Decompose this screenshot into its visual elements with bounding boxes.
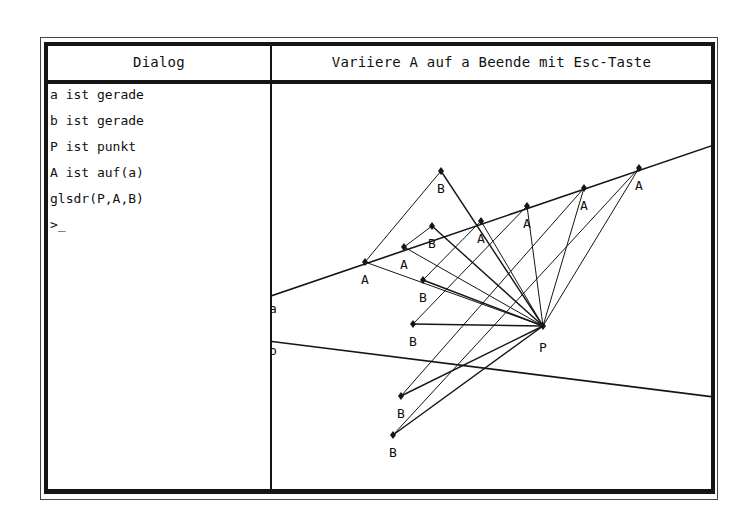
dialog-line: P ist punkt — [50, 140, 136, 154]
segment-AB — [393, 168, 639, 435]
point-A-label: A — [635, 178, 643, 193]
segment-AB — [413, 206, 527, 324]
geometry-drawing[interactable]: abAAAAAABBBBBBP — [272, 84, 711, 489]
dialog-pane[interactable]: a ist gerade b ist gerade P ist punkt A … — [48, 84, 270, 489]
dialog-title: Dialog — [48, 54, 270, 70]
header-bar: Dialog Variiere A auf a Beende mit Esc-T… — [48, 46, 711, 84]
point-A-label: A — [477, 231, 485, 246]
point-B-label: B — [437, 181, 445, 196]
point-B-label: B — [397, 406, 405, 421]
dialog-line: a ist gerade — [50, 88, 144, 102]
segment-PA — [543, 188, 584, 326]
point-P-label: P — [539, 340, 547, 355]
segment-PA — [543, 168, 639, 326]
point-A-label: A — [400, 257, 408, 272]
command-prompt[interactable]: >_ — [50, 218, 66, 232]
canvas-title: Variiere A auf a Beende mit Esc-Taste — [272, 54, 711, 70]
application-window: Dialog Variiere A auf a Beende mit Esc-T… — [44, 42, 715, 494]
line-a — [272, 145, 711, 297]
point-A-label: A — [523, 216, 531, 231]
segment-AB — [401, 188, 584, 396]
point-B-label: B — [409, 334, 417, 349]
point-A-label: A — [361, 272, 369, 287]
point-B-label: B — [389, 445, 397, 460]
segment-PB — [413, 324, 543, 326]
geometry-canvas[interactable]: abAAAAAABBBBBBP — [272, 84, 711, 489]
point-B-label: B — [428, 236, 436, 251]
segment-PA — [481, 221, 543, 326]
line-a-label: a — [272, 301, 277, 316]
line-b-label: b — [272, 343, 277, 358]
point-B-label: B — [419, 290, 427, 305]
dialog-line: glsdr(P,A,B) — [50, 192, 144, 206]
dialog-line: A ist auf(a) — [50, 166, 144, 180]
dialog-line: b ist gerade — [50, 114, 144, 128]
point-A-label: A — [580, 198, 588, 213]
line-b — [272, 341, 711, 397]
